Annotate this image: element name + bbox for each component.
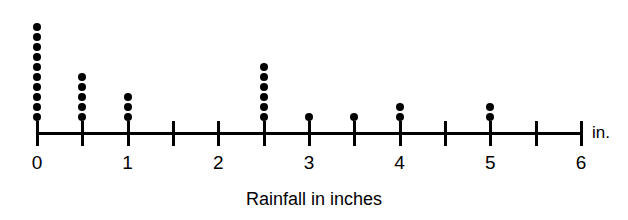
data-dot xyxy=(486,113,494,121)
x-axis-tick-label: 1 xyxy=(108,152,148,174)
data-dot xyxy=(260,83,268,91)
x-axis-tick xyxy=(399,121,402,146)
dot-stack xyxy=(72,0,92,121)
data-dot xyxy=(33,113,41,121)
data-dot xyxy=(124,93,132,101)
data-dot xyxy=(33,63,41,71)
x-axis-tick xyxy=(263,121,266,146)
x-axis-title: Rainfall in inches xyxy=(0,188,628,210)
data-dot xyxy=(33,73,41,81)
dot-stack xyxy=(344,0,364,121)
data-dot xyxy=(396,103,404,111)
x-axis-tick xyxy=(353,121,356,146)
dot-stack xyxy=(480,0,500,121)
x-axis-tick xyxy=(489,121,492,146)
data-dot xyxy=(124,103,132,111)
x-axis-tick xyxy=(308,121,311,146)
x-axis-tick-label: 2 xyxy=(198,152,238,174)
data-dot xyxy=(33,103,41,111)
data-dot xyxy=(396,113,404,121)
x-axis-tick-label: 4 xyxy=(380,152,420,174)
data-dot xyxy=(33,53,41,61)
data-dot xyxy=(260,63,268,71)
x-axis-tick-label: 0 xyxy=(17,152,57,174)
x-axis-tick xyxy=(444,121,447,146)
data-dot xyxy=(305,113,313,121)
x-axis-tick xyxy=(172,121,175,146)
data-dot xyxy=(33,43,41,51)
data-dot xyxy=(78,93,86,101)
axis-unit-label: in. xyxy=(592,123,610,143)
dot-plot-figure: 0123456 in. Rainfall in inches xyxy=(0,0,628,220)
data-dot xyxy=(260,113,268,121)
data-dot xyxy=(33,23,41,31)
x-axis-tick xyxy=(535,121,538,146)
data-dot xyxy=(124,113,132,121)
data-dot xyxy=(260,93,268,101)
dot-stack xyxy=(299,0,319,121)
data-dot xyxy=(33,93,41,101)
data-dot xyxy=(33,33,41,41)
x-axis-tick xyxy=(81,121,84,146)
data-dot xyxy=(260,103,268,111)
data-dot xyxy=(350,113,358,121)
dot-stack xyxy=(27,0,47,121)
data-dot xyxy=(78,83,86,91)
data-dot xyxy=(486,103,494,111)
data-dot xyxy=(33,83,41,91)
x-axis-tick-label: 3 xyxy=(289,152,329,174)
data-dot xyxy=(78,113,86,121)
x-axis-tick xyxy=(36,121,39,146)
x-axis-tick xyxy=(580,121,583,146)
data-dot xyxy=(260,73,268,81)
x-axis-tick-label: 5 xyxy=(470,152,510,174)
dot-stack xyxy=(118,0,138,121)
dot-stack xyxy=(390,0,410,121)
dot-stack xyxy=(254,0,274,121)
data-dot xyxy=(78,103,86,111)
x-axis-tick xyxy=(127,121,130,146)
x-axis-tick xyxy=(217,121,220,146)
data-dot xyxy=(78,73,86,81)
x-axis-tick-label: 6 xyxy=(561,152,601,174)
